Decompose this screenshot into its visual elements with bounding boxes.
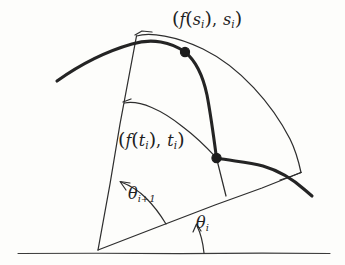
baseline <box>18 253 330 254</box>
label-point-s-inner-open: ( <box>185 7 192 29</box>
label-point-t-comma: , <box>156 131 162 150</box>
label-theta-next-subscript: i+1 <box>138 193 156 204</box>
point-t-dot <box>212 153 221 162</box>
label-theta-next-symbol: θ <box>128 184 138 203</box>
geometry-figure: (f(si), si) (f(ti), ti) θi+1 θi <box>0 0 345 265</box>
label-point-t-inner-open: ( <box>131 128 138 150</box>
thick-curve <box>57 41 312 196</box>
point-s-dot <box>180 47 189 56</box>
label-theta-i-symbol: θ <box>196 213 206 232</box>
label-theta-next: θi+1 <box>128 186 156 204</box>
label-theta-i-subscript: i <box>206 222 209 233</box>
label-theta-i: θi <box>196 215 209 233</box>
label-point-s-close-paren: ) <box>235 7 242 29</box>
label-point-t-close-paren: ) <box>177 128 184 150</box>
label-point-t: (f(ti), ti) <box>118 130 185 150</box>
label-point-s-inner-var: s <box>193 10 201 29</box>
label-point-t-inner-close: ) <box>149 128 156 150</box>
connector-t-to-ray <box>217 158 227 196</box>
label-point-s-inner-close: ) <box>204 7 211 29</box>
outer-arc <box>137 35 302 173</box>
label-point-s-comma: , <box>212 10 218 29</box>
label-point-s: (f(si), si) <box>172 9 242 29</box>
